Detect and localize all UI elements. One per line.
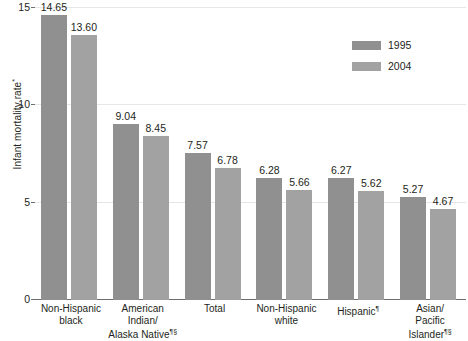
- category-label-line: Asian/: [394, 303, 466, 315]
- legend-label-1995: 1995: [388, 39, 411, 51]
- legend-item-1995: 1995: [352, 38, 411, 52]
- legend-swatch-1995: [352, 41, 381, 50]
- category-label-line: white: [251, 315, 323, 327]
- bar: 7.57: [185, 153, 211, 300]
- category-label-line: Pacific Islander¶§: [394, 315, 466, 341]
- bar: 6.27: [328, 178, 354, 300]
- category-label-line: Total: [179, 303, 251, 315]
- bar-value-label: 14.65: [41, 1, 67, 13]
- bar-value-label: 13.60: [71, 21, 97, 33]
- infant-mortality-bar-chart: Infant mortality rate* 051015 14.6513.60…: [0, 0, 468, 341]
- bar-value-label: 6.28: [259, 164, 279, 176]
- bar: 5.62: [358, 191, 384, 300]
- bar: 14.65: [41, 15, 67, 300]
- category-axis-labels: Non-HispanicblackAmericanIndian/Alaska N…: [35, 303, 466, 341]
- bar-value-label: 4.67: [433, 195, 453, 207]
- bar: 5.66: [286, 190, 312, 300]
- category-label-line: black: [35, 315, 107, 327]
- category-label: AmericanIndian/Alaska Native¶§: [107, 303, 179, 341]
- category-label: Non-Hispanicblack: [35, 303, 107, 326]
- bar-value-label: 5.66: [289, 176, 309, 188]
- bar-value-label: 7.57: [187, 139, 207, 151]
- bar-value-label: 8.45: [146, 122, 166, 134]
- category-label-line: Non-Hispanic: [251, 303, 323, 315]
- y-axis-title: Infant mortality rate*: [11, 44, 23, 204]
- bar: 8.45: [143, 136, 169, 300]
- category-label: Non-Hispanicwhite: [251, 303, 323, 326]
- category-label-line: Alaska Native¶§: [107, 326, 179, 341]
- category-label: Asian/Pacific Islander¶§: [394, 303, 466, 341]
- category-label-line: Indian/: [107, 315, 179, 327]
- category-footnote-marker: ¶§: [169, 328, 177, 335]
- legend-label-2004: 2004: [388, 60, 411, 72]
- category-label: Hispanic¶: [322, 303, 394, 318]
- bar: 13.60: [71, 35, 97, 300]
- bar: 6.78: [215, 168, 241, 300]
- category-label: Total: [179, 303, 251, 315]
- chart-legend: 1995 2004: [352, 38, 411, 80]
- category-label-line: Non-Hispanic: [35, 303, 107, 315]
- bar: 6.28: [256, 178, 282, 300]
- bar: 4.67: [430, 209, 456, 300]
- bar-value-label: 5.62: [361, 177, 381, 189]
- y-tick-label-5: 5: [24, 196, 30, 208]
- bar-value-label: 9.04: [116, 110, 136, 122]
- y-tick-label-10: 10: [18, 98, 30, 110]
- legend-item-2004: 2004: [352, 59, 411, 73]
- legend-swatch-2004: [352, 62, 381, 71]
- category-footnote-marker: ¶: [376, 305, 380, 312]
- y-axis-footnote-marker: *: [11, 79, 18, 82]
- bar-value-label: 6.78: [217, 154, 237, 166]
- category-label-line: Hispanic¶: [322, 303, 394, 318]
- y-axis-title-text: Infant mortality rate: [12, 82, 23, 170]
- bar-value-label: 5.27: [403, 183, 423, 195]
- y-tick-label-15: 15: [18, 1, 30, 13]
- y-tick-label-0: 0: [24, 293, 30, 305]
- category-footnote-marker: ¶§: [444, 328, 452, 335]
- bar: 5.27: [400, 197, 426, 300]
- bar: 9.04: [113, 124, 139, 300]
- category-label-line: American: [107, 303, 179, 315]
- bar-value-label: 6.27: [331, 164, 351, 176]
